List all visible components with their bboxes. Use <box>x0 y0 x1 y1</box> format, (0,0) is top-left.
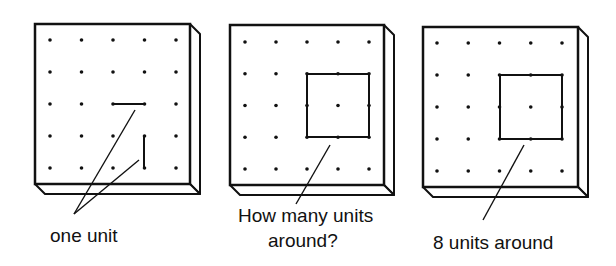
peg-dot <box>305 167 309 171</box>
peg-dot <box>48 70 52 74</box>
peg-dot <box>435 73 439 77</box>
peg-dot <box>274 72 278 76</box>
peg-dot <box>48 102 52 106</box>
peg-dot <box>466 169 470 173</box>
caption-label: 8 units around <box>433 232 553 253</box>
peg-dot <box>466 105 470 109</box>
peg-dot <box>274 135 278 139</box>
peg-dot <box>529 41 533 45</box>
peg-dot <box>243 135 247 139</box>
geoboard-perimeter-diagram: one unit How many unitsaround? 8 units a… <box>0 0 616 266</box>
peg-dot <box>243 40 247 44</box>
peg-dot <box>174 38 178 42</box>
peg-dot <box>560 169 564 173</box>
peg-dot <box>336 167 340 171</box>
peg-dot <box>274 167 278 171</box>
peg-dot <box>80 38 84 42</box>
peg-dot <box>243 104 247 108</box>
peg-dot <box>48 134 52 138</box>
panel-eight-units-around: 8 units around <box>423 27 588 253</box>
peg-dot <box>274 40 278 44</box>
peg-dot <box>80 102 84 106</box>
caption-label: one unit <box>50 225 118 246</box>
caption-label: around? <box>268 230 338 251</box>
peg-dot <box>111 38 115 42</box>
peg-dot <box>435 137 439 141</box>
peg-dot <box>111 134 115 138</box>
peg-dot <box>111 166 115 170</box>
board-side-edge <box>578 27 588 197</box>
board-side-edge <box>190 24 200 194</box>
peg-dot <box>466 137 470 141</box>
peg-dot <box>174 166 178 170</box>
panel-one-unit: one unit <box>35 24 200 246</box>
peg-dot <box>529 105 533 109</box>
board-bottom-edge <box>35 184 200 194</box>
peg-dot <box>336 40 340 44</box>
peg-dot <box>143 70 147 74</box>
peg-dot <box>80 70 84 74</box>
caption-label: How many units <box>238 205 373 226</box>
peg-dot <box>435 105 439 109</box>
peg-dot <box>435 169 439 173</box>
peg-dot <box>243 72 247 76</box>
peg-dot <box>48 166 52 170</box>
peg-dot <box>174 70 178 74</box>
peg-dot <box>80 134 84 138</box>
peg-dot <box>336 104 340 108</box>
board-bottom-edge <box>230 185 394 195</box>
peg-dot <box>48 38 52 42</box>
peg-dot <box>560 41 564 45</box>
peg-dot <box>111 70 115 74</box>
peg-dot <box>274 104 278 108</box>
peg-dot <box>174 102 178 106</box>
peg-dot <box>143 38 147 42</box>
board-bottom-edge <box>423 187 588 197</box>
peg-dot <box>305 40 309 44</box>
peg-dot <box>367 167 371 171</box>
peg-dot <box>435 41 439 45</box>
peg-dot <box>466 73 470 77</box>
panel-how-many-units: How many unitsaround? <box>230 25 394 251</box>
peg-dot <box>243 167 247 171</box>
peg-dot <box>498 169 502 173</box>
peg-dot <box>174 134 178 138</box>
peg-dot <box>80 166 84 170</box>
board-side-edge <box>384 25 394 195</box>
peg-dot <box>498 41 502 45</box>
peg-dot <box>367 40 371 44</box>
peg-dot <box>466 41 470 45</box>
peg-dot <box>529 169 533 173</box>
